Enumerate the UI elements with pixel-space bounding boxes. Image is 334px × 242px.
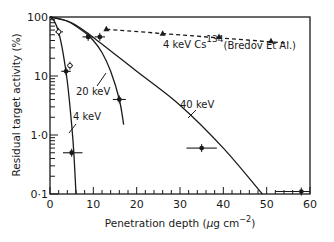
x-tick-label: 60 [303,198,317,211]
annotation-20kev: 20 keV [76,86,110,97]
data-point-open [68,63,72,67]
x-tick-label: 10 [86,198,100,211]
x-tick-label: 50 [260,198,274,211]
y-axis-label: Residual target activity (%) [10,33,22,176]
data-point-triangle [160,30,166,36]
y-tick-label: 10 [34,70,48,83]
x-tick-label: 30 [173,198,187,211]
annotation-cs134: 4 keV Cs134(Bredov Et Al.) [163,34,296,51]
series-curve [50,17,76,194]
y-tick-label: 1·0 [31,129,49,142]
leader-20kev [97,73,106,86]
x-axis-label: Penetration depth (µg cm−2) [105,215,255,229]
annotation-40kev: 40 keV [180,99,214,110]
data-point-filled [64,69,69,74]
annotation-4kev: 4 keV [73,111,101,122]
series-4-kev [50,17,83,194]
data-point-filled [117,97,122,102]
data-point-triangle [103,26,109,32]
data-point-open [56,30,60,34]
chart: 0102030405060100101·00·1 Residual target… [0,0,334,242]
data-point-filled [69,150,74,155]
y-tick-label: 0·1 [31,188,49,201]
data-point-filled [97,34,102,39]
y-tick-label: 100 [27,11,48,24]
x-tick-label: 20 [130,198,144,211]
x-tick-label: 40 [216,198,230,211]
data-point-filled [199,146,204,151]
